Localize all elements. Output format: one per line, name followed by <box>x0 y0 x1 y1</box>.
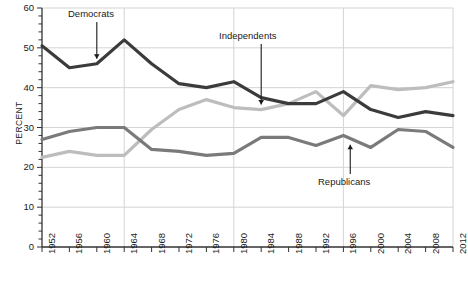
x-tick-label-1992: 1992 <box>320 233 331 254</box>
x-tick-label-2008: 2008 <box>430 233 441 254</box>
tick-marks-group <box>37 8 453 252</box>
series-lines-group <box>42 40 453 158</box>
x-tick-label-2012: 2012 <box>457 233 468 254</box>
annotation-arrow-head <box>347 145 353 150</box>
x-tick-label-1996: 1996 <box>347 233 358 254</box>
y-tick-label-10: 10 <box>8 201 34 212</box>
x-tick-label-2004: 2004 <box>402 233 413 254</box>
x-tick-label-1984: 1984 <box>265 233 276 254</box>
x-tick-label-1960: 1960 <box>101 233 112 254</box>
x-tick-label-1988: 1988 <box>293 233 304 254</box>
annotation-label-democrats: Democrats <box>68 8 114 19</box>
y-tick-label-50: 50 <box>8 42 34 53</box>
x-tick-label-1976: 1976 <box>210 233 221 254</box>
y-tick-label-60: 60 <box>8 2 34 13</box>
series-line-democrats <box>42 40 453 118</box>
x-tick-label-2000: 2000 <box>375 233 386 254</box>
annotation-label-independents: Independents <box>219 30 277 41</box>
y-tick-label-30: 30 <box>8 122 34 133</box>
y-tick-label-0: 0 <box>8 241 34 252</box>
x-tick-label-1956: 1956 <box>73 233 84 254</box>
annotation-arrow-head <box>258 100 264 105</box>
annotation-arrows-group <box>94 22 353 174</box>
x-tick-label-1980: 1980 <box>238 233 249 254</box>
series-line-republicans <box>42 128 453 156</box>
y-tick-label-40: 40 <box>8 82 34 93</box>
annotation-label-republicans: Republicans <box>318 176 370 187</box>
x-tick-label-1952: 1952 <box>46 233 57 254</box>
y-tick-label-20: 20 <box>8 161 34 172</box>
x-tick-label-1968: 1968 <box>156 233 167 254</box>
x-tick-label-1972: 1972 <box>183 233 194 254</box>
x-tick-label-1964: 1964 <box>128 233 139 254</box>
annotation-arrow-head <box>94 54 100 59</box>
